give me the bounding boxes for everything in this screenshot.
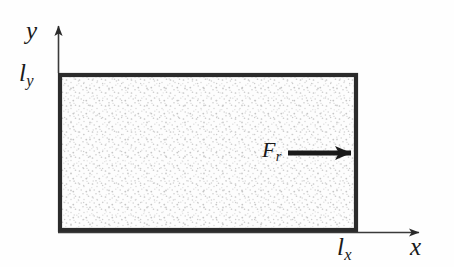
x-axis-label: x: [410, 234, 421, 259]
lx-base: l: [337, 233, 344, 260]
y-axis-label: y: [26, 18, 37, 43]
fr-subscript: r: [276, 148, 282, 164]
fr-base: F: [262, 137, 275, 162]
diagram-canvas: [0, 0, 454, 267]
ly-base: l: [19, 59, 26, 86]
y-axis-tick-label-ly: ly: [19, 60, 34, 89]
force-label-fr: Fr: [262, 139, 281, 164]
lx-subscript: x: [344, 245, 351, 264]
ly-subscript: y: [26, 71, 33, 90]
physics-diagram-figure: y ly lx x Fr: [0, 0, 454, 267]
x-axis-tick-label-lx: lx: [337, 234, 352, 263]
